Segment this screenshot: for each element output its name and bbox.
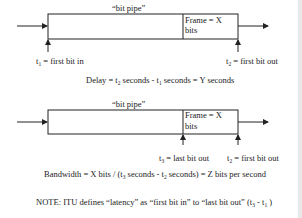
t2-label: t2 = first bit out — [227, 153, 279, 164]
diagram-canvas — [0, 0, 302, 218]
frame-label: Frame = X — [185, 15, 222, 25]
pipe-label: “bit pipe” — [112, 3, 145, 13]
frame-label-bits: bits — [185, 121, 197, 131]
bandwidth-formula: Bandwidth = X bits / (t3 seconds - t2 se… — [44, 169, 266, 180]
frame-label-bits: bits — [185, 25, 197, 35]
t2-label: t2 = first bit out — [226, 56, 278, 67]
delay-formula: Delay = t2 seconds - t1 seconds = Y seco… — [86, 75, 234, 86]
t1-label: t1 = first bit in — [36, 56, 84, 67]
frame-label: Frame = X — [185, 110, 222, 120]
t3-label: t3 = last bit out — [159, 153, 209, 164]
note-text: NOTE: ITU defines “latency” as “first bi… — [36, 197, 272, 208]
pipe-label: “bit pipe” — [112, 99, 145, 109]
page-edge — [298, 0, 302, 218]
